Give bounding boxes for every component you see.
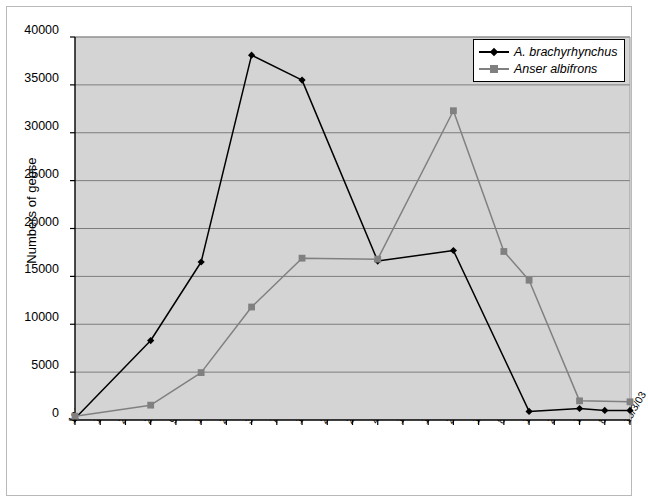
data-point-marker	[526, 277, 533, 284]
chart-frame: Numbers of geese 40000350003000025000200…	[6, 6, 632, 496]
data-point-marker	[500, 248, 507, 255]
square-marker-icon	[479, 63, 509, 75]
data-point-marker	[198, 369, 205, 376]
data-point-marker	[450, 107, 457, 114]
diamond-marker-icon	[479, 46, 509, 58]
data-point-marker	[147, 402, 154, 409]
data-point-marker	[374, 256, 381, 263]
data-point-marker	[72, 413, 79, 420]
legend-item-label: A. brachyrhynchus	[514, 45, 618, 59]
data-point-marker	[627, 398, 634, 405]
chart-legend: A. brachyrhynchus Anser albifrons	[473, 39, 625, 82]
legend-item: A. brachyrhynchus	[479, 43, 618, 60]
data-point-marker	[299, 255, 306, 262]
legend-item-label: Anser albifrons	[514, 62, 597, 76]
legend-item: Anser albifrons	[479, 60, 618, 77]
data-point-marker	[248, 304, 255, 311]
data-point-marker	[576, 397, 583, 404]
